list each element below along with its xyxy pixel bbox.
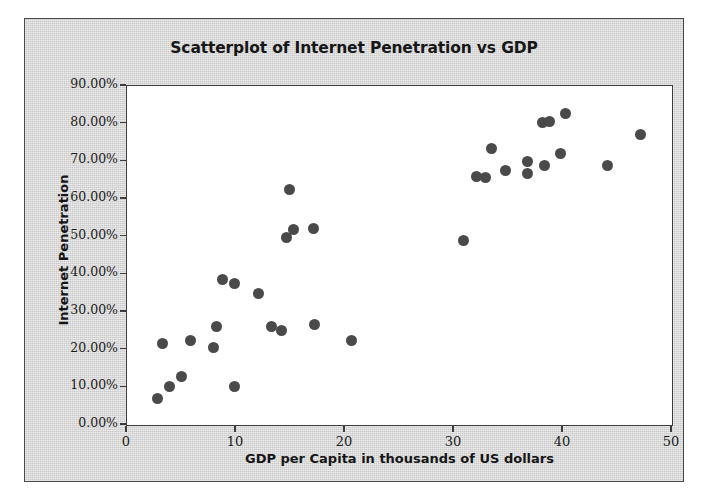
data-point xyxy=(157,338,168,349)
data-point xyxy=(208,342,219,353)
y-tick-label: 70.00% xyxy=(70,151,118,166)
y-tick-label: 20.00% xyxy=(70,340,118,355)
x-tick-label: 40 xyxy=(554,434,571,449)
y-tick-mark xyxy=(120,423,126,425)
plot-area xyxy=(126,85,673,426)
x-tick-mark xyxy=(561,426,563,432)
y-tick-mark xyxy=(120,84,126,86)
y-tick-label: 30.00% xyxy=(70,302,118,317)
y-tick-label: 40.00% xyxy=(70,264,118,279)
data-point xyxy=(185,335,196,346)
data-point xyxy=(635,129,646,140)
y-tick-label: 90.00% xyxy=(70,76,118,91)
y-tick-mark xyxy=(120,122,126,124)
y-tick-label: 50.00% xyxy=(70,227,118,242)
x-tick-mark xyxy=(234,426,236,432)
x-axis-ticks: 01020304050 xyxy=(126,426,673,466)
data-point xyxy=(544,116,555,127)
data-point xyxy=(602,160,613,171)
data-point xyxy=(164,381,175,392)
data-point xyxy=(284,184,295,195)
data-point xyxy=(560,108,571,119)
data-point xyxy=(346,335,357,346)
y-tick-mark xyxy=(120,273,126,275)
data-point xyxy=(276,325,287,336)
y-tick-mark xyxy=(120,386,126,388)
data-point xyxy=(253,288,264,299)
x-tick-mark xyxy=(343,426,345,432)
figure-panel: Scatterplot of Internet Penetration vs G… xyxy=(24,18,684,482)
data-point xyxy=(480,172,491,183)
y-tick-mark xyxy=(120,235,126,237)
y-tick-mark xyxy=(120,197,126,199)
y-axis-ticks: 0.00%10.00%20.00%30.00%40.00%50.00%60.00… xyxy=(25,19,126,481)
y-tick-mark xyxy=(120,348,126,350)
x-tick-label: 30 xyxy=(445,434,462,449)
data-point xyxy=(217,274,228,285)
y-tick-label: 60.00% xyxy=(70,189,118,204)
data-point xyxy=(229,278,240,289)
data-point xyxy=(555,148,566,159)
x-tick-mark xyxy=(452,426,454,432)
data-point xyxy=(152,393,163,404)
data-point xyxy=(211,321,222,332)
data-point xyxy=(309,319,320,330)
x-tick-label: 10 xyxy=(227,434,244,449)
y-tick-label: 80.00% xyxy=(70,114,118,129)
x-tick-mark xyxy=(670,426,672,432)
data-point xyxy=(458,235,469,246)
x-tick-label: 50 xyxy=(663,434,680,449)
data-point xyxy=(522,156,533,167)
y-tick-label: 0.00% xyxy=(78,415,118,430)
data-point xyxy=(500,165,511,176)
data-point xyxy=(539,160,550,171)
data-point xyxy=(486,143,497,154)
data-point xyxy=(308,223,319,234)
data-point xyxy=(229,381,240,392)
y-tick-label: 10.00% xyxy=(70,377,118,392)
data-point xyxy=(522,168,533,179)
x-tick-label: 20 xyxy=(336,434,353,449)
x-tick-label: 0 xyxy=(122,434,130,449)
data-point xyxy=(176,371,187,382)
x-tick-mark xyxy=(125,426,127,432)
y-tick-mark xyxy=(120,160,126,162)
data-point xyxy=(288,224,299,235)
y-tick-mark xyxy=(120,310,126,312)
